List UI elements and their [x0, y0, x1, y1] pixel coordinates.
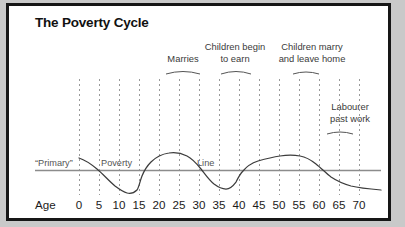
axis-tick-25: 25 [173, 198, 186, 211]
inline-label-primary: “Primary” [35, 158, 73, 168]
gridlines [80, 79, 360, 195]
axis-tick-15: 15 [133, 198, 146, 211]
inline-label-poverty: Poverty [101, 158, 132, 168]
axis-tick-50: 50 [273, 198, 286, 211]
axis-tick-30: 30 [193, 198, 206, 211]
axis-tick-65: 65 [333, 198, 346, 211]
figure-frame: The Poverty Cycle Marries Children begin… [6, 3, 391, 221]
brace-marries [166, 72, 200, 75]
axis-tick-45: 45 [253, 198, 266, 211]
axis-tick-5: 5 [96, 198, 102, 211]
axis-tick-60: 60 [313, 198, 326, 211]
brace-labourer [327, 132, 353, 134]
inline-label-line: Line [197, 158, 214, 168]
axis-tick-35: 35 [213, 198, 226, 211]
axis-tick-20: 20 [153, 198, 166, 211]
brace-children-marry [293, 72, 319, 74]
axis-label-age: Age [35, 198, 56, 211]
brace-children-begin [221, 72, 251, 75]
plot-graphics [9, 6, 388, 218]
axis-tick-10: 10 [113, 198, 126, 211]
axis-tick-0: 0 [76, 198, 82, 211]
axis-tick-55: 55 [293, 198, 306, 211]
axis-tick-40: 40 [233, 198, 246, 211]
chart-canvas: The Poverty Cycle Marries Children begin… [9, 6, 388, 218]
axis-tick-70: 70 [353, 198, 366, 211]
